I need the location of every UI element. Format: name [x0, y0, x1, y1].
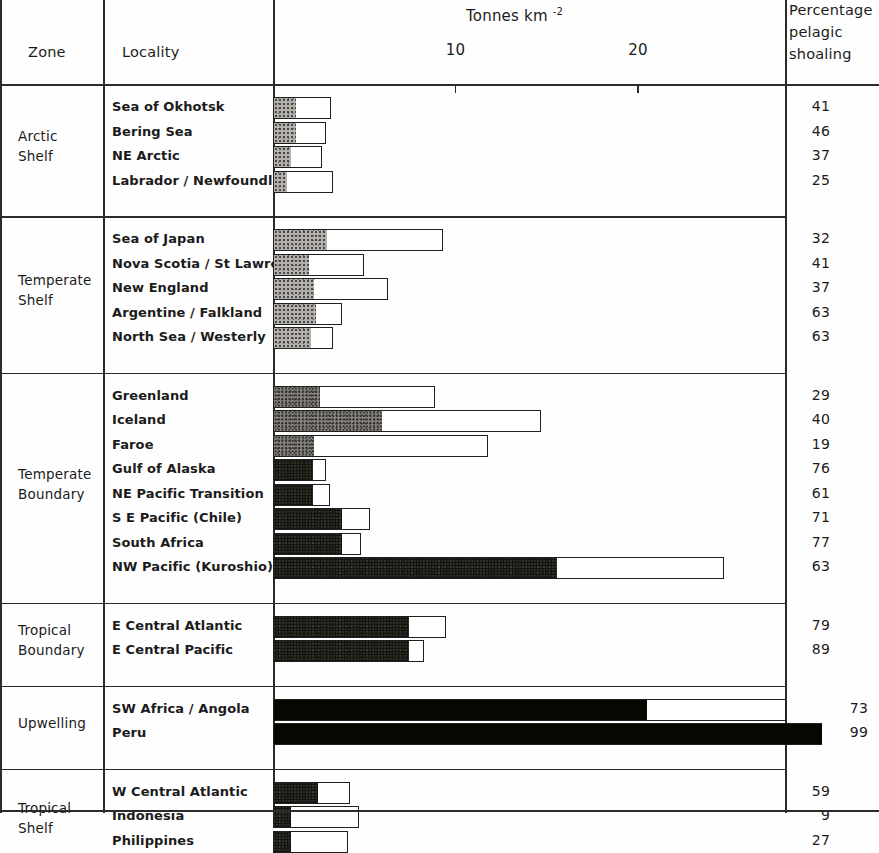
zone-label: Upwelling	[18, 715, 86, 731]
bar-shaded-portion	[274, 279, 314, 299]
axis-tick-10	[455, 84, 457, 93]
percent-value: 41	[790, 98, 830, 114]
percent-value: 25	[790, 172, 830, 188]
locality-label: Iceland	[112, 412, 166, 427]
bar-total	[273, 616, 446, 638]
bar-shaded-portion	[274, 147, 291, 167]
locality-label: NE Pacific Transition	[112, 486, 264, 501]
percent-value: 63	[790, 304, 830, 320]
percent-value: 19	[790, 436, 830, 452]
locality-label: NW Pacific (Kuroshio)	[112, 559, 273, 574]
percent-value: 32	[790, 230, 830, 246]
group-separator-rule	[0, 216, 787, 218]
axis-tick-label-20: 20	[628, 41, 648, 59]
percent-value: 71	[790, 509, 830, 525]
zone-label: Shelf	[18, 292, 53, 308]
bar-total	[273, 122, 326, 144]
locality-label: Faroe	[112, 437, 154, 452]
bar-total	[273, 699, 786, 721]
locality-label: Gulf of Alaska	[112, 461, 216, 476]
bar-shaded-portion	[274, 328, 311, 348]
bar-shaded-portion	[274, 460, 313, 480]
percent-value: 37	[790, 279, 830, 295]
locality-label: Labrador / Newfoundland	[112, 173, 300, 188]
percent-value: 59	[790, 783, 830, 799]
locality-label: SW Africa / Angola	[112, 701, 250, 716]
percent-value: 63	[790, 328, 830, 344]
bar-total	[273, 171, 333, 193]
locality-label: Bering Sea	[112, 124, 193, 139]
bar-shaded-portion	[274, 304, 316, 324]
axis-tick-20	[637, 84, 639, 93]
bar-shaded-portion	[274, 230, 327, 250]
bar-total	[273, 831, 348, 853]
percent-value: 37	[790, 147, 830, 163]
group-separator-rule	[0, 769, 787, 771]
locality-label: E Central Pacific	[112, 642, 233, 657]
zone-label: Temperate	[18, 272, 92, 288]
bar-total	[273, 508, 370, 530]
locality-label: Sea of Japan	[112, 231, 205, 246]
percent-value: 63	[790, 558, 830, 574]
bar-total	[273, 303, 342, 325]
zone-label: Shelf	[18, 148, 53, 164]
bar-shaded-portion	[274, 123, 296, 143]
zone-column-divider	[103, 0, 105, 813]
locality-label: W Central Atlantic	[112, 784, 248, 799]
percent-column-header-line3: shoaling	[789, 46, 852, 62]
bar-shaded-portion	[274, 98, 296, 118]
bar-shaded-portion	[274, 485, 313, 505]
percent-value: 76	[790, 460, 830, 476]
percent-value: 29	[790, 387, 830, 403]
zone-label: Boundary	[18, 642, 85, 658]
locality-label: North Sea / Westerly	[112, 329, 266, 344]
bar-shaded-portion	[274, 411, 382, 431]
percent-value: 46	[790, 123, 830, 139]
locality-label: Peru	[112, 725, 146, 740]
bar-total	[273, 723, 822, 745]
bar-shaded-portion	[274, 783, 318, 803]
bar-total	[273, 254, 364, 276]
bar-shaded-portion	[274, 700, 647, 720]
header-bottom-rule	[0, 84, 879, 86]
zone-label: Temperate	[18, 466, 92, 482]
zone-label: Tropical	[18, 622, 71, 638]
bar-total	[273, 327, 333, 349]
percent-value: 27	[790, 832, 830, 848]
bar-total	[273, 386, 435, 408]
locality-column-header: Locality	[122, 44, 179, 60]
bar-total	[273, 557, 724, 579]
axis-title: Tonnes km -2	[466, 6, 563, 25]
frame-bottom-border	[0, 810, 879, 812]
bar-total	[273, 229, 443, 251]
bar-shaded-portion	[274, 641, 409, 661]
axis-tick-label-10: 10	[446, 41, 466, 59]
bar-shaded-portion	[274, 534, 342, 554]
bar-total	[273, 533, 361, 555]
group-separator-rule	[0, 373, 787, 375]
percent-value: 61	[790, 485, 830, 501]
zone-label: Boundary	[18, 486, 85, 502]
locality-label: S E Pacific (Chile)	[112, 510, 242, 525]
percent-column-header-line2: pelagic	[789, 24, 843, 40]
bar-total	[273, 640, 424, 662]
group-separator-rule	[0, 686, 787, 688]
percent-column-header-line1: Percentage	[789, 2, 873, 18]
locality-label: South Africa	[112, 535, 204, 550]
bar-total	[273, 484, 330, 506]
locality-label: Greenland	[112, 388, 189, 403]
bar-total	[273, 410, 541, 432]
zone-label: Tropical	[18, 800, 71, 816]
locality-label: E Central Atlantic	[112, 618, 242, 633]
percent-value: 99	[828, 724, 868, 740]
zone-column-header: Zone	[28, 44, 66, 60]
percent-value: 73	[828, 700, 868, 716]
bar-shaded-portion	[274, 509, 342, 529]
bar-total	[273, 782, 350, 804]
bar-shaded-portion	[274, 724, 822, 744]
bar-shaded-portion	[274, 436, 314, 456]
percent-column-divider	[785, 0, 787, 813]
zone-label: Shelf	[18, 820, 53, 836]
locality-label: Philippines	[112, 833, 194, 848]
